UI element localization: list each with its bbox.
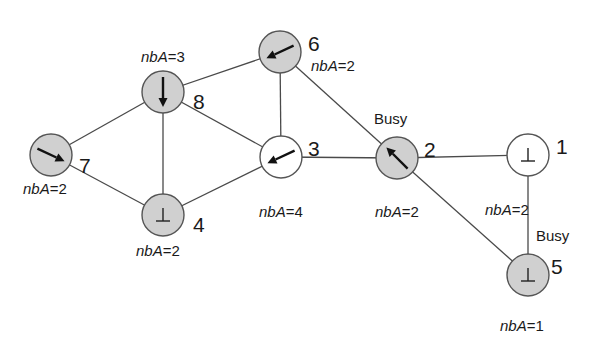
nba-label: nbA=1 (500, 317, 544, 334)
node-2: 2nbA=2Busy (374, 110, 436, 220)
nba-label: nbA=2 (136, 242, 180, 259)
busy-label: Busy (536, 227, 570, 244)
node-id-label: 1 (556, 135, 568, 158)
nba-label: nbA=2 (485, 201, 529, 218)
node-6: 6nbA=2 (259, 31, 355, 74)
node-3: 3nbA=4 (259, 136, 320, 220)
node-5: 5nbA=1Busy (500, 227, 570, 334)
node-id-label: 3 (308, 137, 320, 160)
node-id-label: 6 (308, 32, 320, 55)
nba-label: nbA=2 (375, 203, 419, 220)
node-4: 4nbA=2 (136, 194, 205, 259)
nodes-layer: 1nbA=22nbA=2Busy3nbA=44nbA=25nbA=1Busy6n… (23, 31, 570, 334)
node-id-label: 7 (79, 154, 91, 177)
node-id-label: 4 (193, 213, 205, 236)
nba-label: nbA=2 (23, 180, 67, 197)
nba-label: nbA=2 (311, 57, 355, 74)
nba-label: nbA=4 (259, 203, 303, 220)
node-id-label: 8 (193, 90, 205, 113)
busy-label: Busy (374, 110, 408, 127)
node-7: 7nbA=2 (23, 134, 91, 197)
node-1: 1nbA=2 (485, 134, 568, 218)
node-id-label: 5 (551, 255, 563, 278)
node-id-label: 2 (424, 138, 436, 161)
nba-label: nbA=3 (141, 48, 185, 65)
network-graph: 1nbA=22nbA=2Busy3nbA=44nbA=25nbA=1Busy6n… (0, 0, 595, 344)
